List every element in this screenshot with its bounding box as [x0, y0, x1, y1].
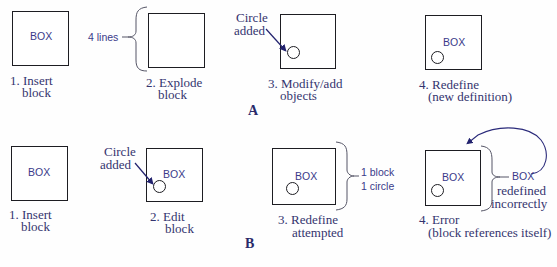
connector-overlay	[0, 0, 557, 267]
b3-brace-icon	[336, 142, 354, 210]
b2-leader-arrow-icon	[135, 163, 152, 183]
a3-leader-arrow-icon	[266, 29, 285, 50]
block-redefinition-diagram: BOX 1. Insert block 4 lines 2. Explode b…	[0, 0, 557, 267]
b4-self-reference-arrow-icon	[468, 128, 546, 174]
a2-brace-icon	[128, 7, 147, 71]
b4-brace-icon	[481, 146, 500, 211]
